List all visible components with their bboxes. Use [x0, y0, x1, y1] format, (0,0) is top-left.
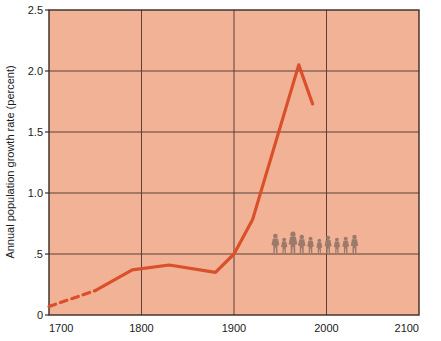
y-axis-tick-labels: 0.51.01.52.02.5	[28, 4, 49, 321]
y-tick-label: 2.0	[28, 65, 43, 77]
y-axis-title: Annual population growth rate (percent)	[4, 65, 16, 258]
y-tick-label: 1.0	[28, 187, 43, 199]
x-tick-label: 1700	[49, 322, 73, 334]
x-axis-tick-labels: 17001800190020002100	[49, 322, 419, 334]
population-growth-chart: 0.51.01.52.02.5 17001800190020002100 Ann…	[0, 0, 441, 341]
y-tick-label: 0	[37, 309, 43, 321]
x-tick-label: 2100	[395, 322, 419, 334]
x-tick-label: 1900	[222, 322, 246, 334]
y-tick-label: .5	[34, 248, 43, 260]
x-tick-label: 1800	[129, 322, 153, 334]
x-tick-label: 2000	[314, 322, 338, 334]
chart-canvas: 0.51.01.52.02.5 17001800190020002100 Ann…	[0, 0, 441, 341]
y-tick-label: 1.5	[28, 126, 43, 138]
y-tick-label: 2.5	[28, 4, 43, 16]
